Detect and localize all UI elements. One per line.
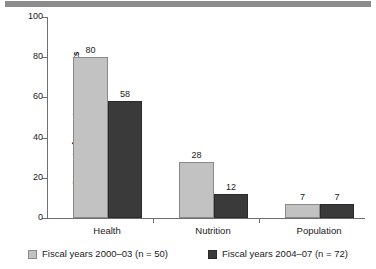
bar-value-label: 7 xyxy=(334,192,339,203)
bar-health-fy2000-03[interactable]: 80 xyxy=(73,57,108,218)
y-tick-label-80: 80 xyxy=(33,50,43,63)
legend-label: Fiscal years 2000–03 (n = 50) xyxy=(42,248,168,260)
y-tick-label-100: 100 xyxy=(28,10,43,23)
bar-value-label: 80 xyxy=(85,45,95,56)
plot-area: Percent of poverty assessments 0 20 40 6… xyxy=(47,17,365,218)
header-rule xyxy=(5,1,371,7)
bar-value-label: 7 xyxy=(300,192,305,203)
x-category-label-health: Health xyxy=(93,224,120,237)
bar-value-label: 28 xyxy=(191,150,201,161)
x-tick-1 xyxy=(153,218,154,223)
chart-legend: Fiscal years 2000–03 (n = 50) Fiscal yea… xyxy=(0,245,376,263)
y-tick-label-0: 0 xyxy=(38,211,43,224)
legend-swatch-icon xyxy=(208,250,217,259)
bar-population-fy2000-03[interactable]: 7 xyxy=(285,204,320,218)
bar-nutrition-fy2004-07[interactable]: 12 xyxy=(214,194,248,218)
bar-population-fy2004-07[interactable]: 7 xyxy=(320,204,354,218)
bar-nutrition-fy2000-03[interactable]: 28 xyxy=(179,162,214,218)
legend-item-fy2004-07[interactable]: Fiscal years 2004–07 (n = 72) xyxy=(208,248,348,260)
poverty-assessments-bar-chart: Percent of poverty assessments 0 20 40 6… xyxy=(0,0,376,269)
y-tick-label-60: 60 xyxy=(33,90,43,103)
legend-label: Fiscal years 2004–07 (n = 72) xyxy=(222,248,348,260)
y-tick-label-20: 20 xyxy=(33,171,43,184)
bar-health-fy2004-07[interactable]: 58 xyxy=(108,101,142,218)
x-category-label-nutrition: Nutrition xyxy=(195,224,230,237)
x-category-label-population: Population xyxy=(297,224,342,237)
bar-value-label: 12 xyxy=(226,182,236,193)
x-tick-2 xyxy=(259,218,260,223)
bar-value-label: 58 xyxy=(120,89,130,100)
x-axis-line xyxy=(47,218,365,219)
y-axis-line xyxy=(47,17,48,218)
y-tick-label-40: 40 xyxy=(33,131,43,144)
legend-swatch-icon xyxy=(28,250,37,259)
legend-item-fy2000-03[interactable]: Fiscal years 2000–03 (n = 50) xyxy=(28,248,168,260)
